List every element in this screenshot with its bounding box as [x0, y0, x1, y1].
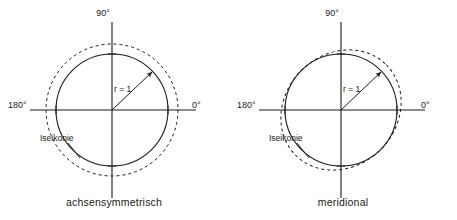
figure-sheet: 0° 180° 90° r = 1 Iseikonie achsensymmet…: [0, 0, 457, 220]
polar-diagram-achsensymmetrisch: 0° 180° 90° r = 1 Iseikonie: [0, 0, 228, 220]
axis-label-0deg: 0°: [192, 100, 201, 110]
axis-label-90deg: 90°: [96, 8, 110, 18]
panel-caption-meridional: meridional: [229, 196, 457, 208]
axis-label-90deg: 90°: [325, 8, 339, 18]
iseikonie-leader-line: [297, 143, 309, 158]
polar-diagram-meridional: 0° 180° 90° r = 1 Iseikonie: [229, 0, 457, 220]
axis-label-180deg: 180°: [8, 100, 27, 110]
iseikonie-label: Iseikonie: [269, 133, 303, 143]
axis-label-0deg: 0°: [421, 100, 430, 110]
panel-meridional: 0° 180° 90° r = 1 Iseikonie meridional: [229, 0, 457, 220]
iseikonie-leader-line: [68, 143, 80, 158]
panel-achsensymmetrisch: 0° 180° 90° r = 1 Iseikonie achsensymmet…: [0, 0, 228, 220]
iseikonie-label: Iseikonie: [40, 133, 74, 143]
panel-caption-achsensymmetrisch: achsensymmetrisch: [0, 196, 228, 208]
radius-annotation-label: r = 1: [114, 84, 132, 94]
radius-annotation-label: r = 1: [343, 84, 361, 94]
axis-label-180deg: 180°: [237, 100, 256, 110]
